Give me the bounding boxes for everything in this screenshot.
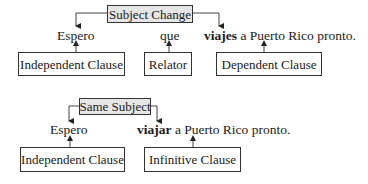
sentence-1-espero: Espero [57, 29, 95, 43]
relator-box: Relator [144, 52, 192, 76]
sentence-1-que: que [160, 29, 180, 43]
dependent-clause-box: Dependent Clause [216, 52, 322, 76]
subject-change-label: Subject Change [107, 5, 193, 23]
sentence-1-dependent: viajes a Puerto Rico pronto. [204, 29, 356, 43]
sentence-1-rest: a Puerto Rico pronto. [237, 28, 356, 43]
sentence-2-rest: a Puerto Rico pronto. [172, 122, 291, 137]
same-subject-label: Same Subject [79, 98, 151, 115]
independent-clause-box-2: Independent Clause [20, 147, 125, 172]
infinitive-clause-box: Infinitive Clause [144, 147, 241, 172]
independent-clause-box-1: Independent Clause [18, 52, 125, 76]
verb-viajar: viajar [137, 122, 172, 137]
sentence-2-espero: Espero [50, 123, 88, 137]
verb-viajes: viajes [204, 28, 237, 43]
sentence-2-infinitive: viajar a Puerto Rico pronto. [137, 123, 290, 137]
